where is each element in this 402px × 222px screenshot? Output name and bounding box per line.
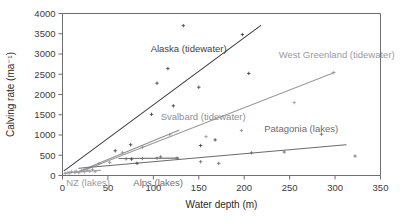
data-point-patagonia-lakes — [199, 160, 202, 163]
y-tick-label-2500: 2500 — [34, 69, 55, 80]
series-label-alaska-tidewater: Alaska (tidewater) — [151, 43, 227, 54]
data-point-alaska-tidewater — [113, 149, 116, 152]
series-label-west-greenland-tidewater: West Greenland (tidewater) — [279, 49, 395, 60]
x-tick-label-250: 250 — [282, 182, 298, 193]
data-point-alaska-tidewater — [199, 144, 202, 147]
data-point-alaska-tidewater — [182, 24, 185, 27]
data-point-patagonia-lakes — [250, 151, 253, 154]
data-point-alaska-tidewater — [155, 81, 158, 84]
y-tick-label-0: 0 — [50, 170, 55, 181]
y-tick-label-1500: 1500 — [34, 109, 55, 120]
data-point-west-greenland-tidewater — [240, 129, 243, 132]
data-point-alaska-tidewater — [241, 33, 244, 36]
data-point-alps-lakes — [141, 157, 144, 160]
series-label-patagonia-lakes: Patagonia (lakes) — [264, 123, 338, 134]
y-axis-title: Calving rate (ma⁻¹) — [5, 52, 16, 137]
data-point-alaska-tidewater — [213, 138, 216, 141]
y-tick-label-2000: 2000 — [34, 89, 55, 100]
y-tick-label-500: 500 — [40, 150, 56, 161]
series-label-alps-lakes: Alps (lakes) — [133, 177, 183, 188]
x-tick-label-300: 300 — [327, 182, 343, 193]
y-tick-label-4000: 4000 — [34, 8, 55, 19]
y-tick-label-3500: 3500 — [34, 28, 55, 39]
data-point-patagonia-lakes — [353, 154, 356, 157]
data-point-alaska-tidewater — [172, 104, 175, 107]
calving-rate-scatter-figure: 050100150200250300350 050010001500200025… — [0, 0, 402, 222]
data-point-patagonia-lakes — [217, 162, 220, 165]
x-tick-label-150: 150 — [191, 182, 207, 193]
y-tick-label-3000: 3000 — [34, 48, 55, 59]
x-tick-label-0: 0 — [60, 182, 65, 193]
data-point-west-greenland-tidewater — [204, 135, 207, 138]
data-point-alaska-tidewater — [166, 67, 169, 70]
series-label-svalbard-tidewater: Svalbard (tidewater) — [161, 111, 246, 122]
data-point-alaska-tidewater — [247, 72, 250, 75]
plot-frame — [63, 14, 381, 176]
data-point-alps-lakes — [124, 157, 127, 160]
plot-svg: 050100150200250300350 050010001500200025… — [0, 0, 402, 222]
data-point-svalbard-tidewater — [108, 161, 111, 164]
data-point-alaska-tidewater — [129, 143, 132, 146]
series-label-nz-lakes: NZ (lakes) — [66, 177, 110, 188]
series-annotations: Alaska (tidewater)West Greenland (tidewa… — [66, 43, 395, 188]
data-point-west-greenland-tidewater — [292, 101, 295, 104]
y-tick-label-1000: 1000 — [34, 129, 55, 140]
data-point-alaska-tidewater — [150, 113, 153, 116]
data-point-alps-lakes — [155, 156, 158, 159]
x-axis-title: Water depth (m) — [186, 199, 258, 210]
data-point-alaska-tidewater — [135, 162, 138, 165]
x-tick-label-200: 200 — [236, 182, 252, 193]
x-tick-label-350: 350 — [373, 182, 389, 193]
data-point-patagonia-lakes — [282, 150, 285, 153]
data-point-alaska-tidewater — [197, 86, 200, 89]
y-axis-ticks: 05001000150020002500300035004000 — [34, 8, 62, 181]
axis-frame — [63, 14, 381, 176]
